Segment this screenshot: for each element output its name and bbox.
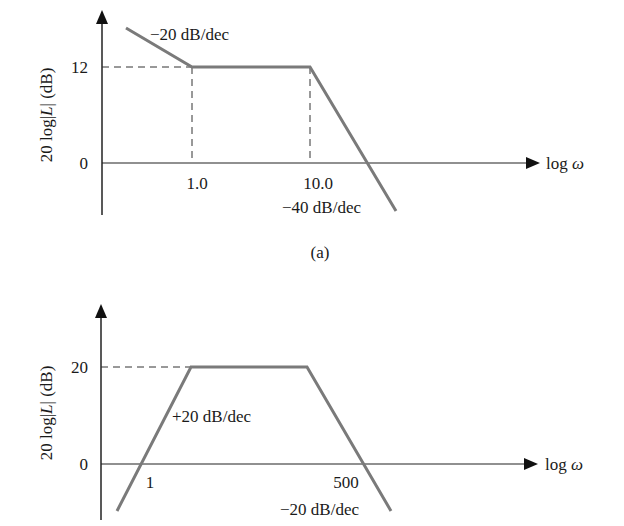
x-tick-1: 1 <box>146 473 155 492</box>
magnitude-curve-a <box>126 28 396 211</box>
y-tick-0: 0 <box>80 455 89 474</box>
slope-annotation-minus20: −20 dB/dec <box>150 25 229 44</box>
x-tick-500: 500 <box>333 473 359 492</box>
plot-b: 20 log|L| (dB) 20 0 1 500 log ω +20 dB/d… <box>37 304 583 520</box>
y-tick-0: 0 <box>80 154 89 173</box>
x-tick-10: 10.0 <box>303 174 333 193</box>
x-axis-arrowhead-icon <box>526 157 540 169</box>
y-tick-12: 12 <box>71 58 88 77</box>
plot-a: 20 log|L| (dB) 12 0 1.0 10.0 log ω −20 d… <box>37 10 584 262</box>
y-axis-arrowhead-icon <box>95 304 107 318</box>
y-axis-arrowhead-icon <box>96 10 108 24</box>
y-axis-label-b: 20 log|L| (dB) <box>37 366 56 461</box>
slope-annotation-minus40: −40 dB/dec <box>282 198 361 217</box>
x-axis-label-a: log ω <box>546 154 584 173</box>
bode-plots-figure: 20 log|L| (dB) 12 0 1.0 10.0 log ω −20 d… <box>0 0 624 526</box>
x-axis-label-b: log ω <box>545 455 583 474</box>
x-tick-1: 1.0 <box>186 174 207 193</box>
x-axis-arrowhead-icon <box>524 458 538 470</box>
y-tick-20: 20 <box>71 358 88 377</box>
slope-annotation-minus20: −20 dB/dec <box>280 500 359 519</box>
y-axis-label-a: 20 log|L| (dB) <box>37 68 56 163</box>
caption-a: (a) <box>311 243 330 262</box>
slope-annotation-plus20: +20 dB/dec <box>172 407 251 426</box>
